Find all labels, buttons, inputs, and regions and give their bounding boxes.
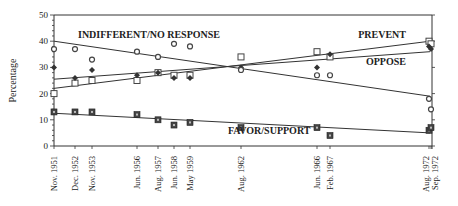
series-annotation: OPPOSE [366,56,406,67]
x-tick-label: Sep. 1972 [430,156,440,190]
y-axis-label: Percentage [7,58,18,102]
x-tick-label: Aug. 1957 [153,156,163,192]
annotations: INDIFFERENT/NO RESPONSEPREVENTOPPOSEFAVO… [78,29,406,136]
series-annotation: INDIFFERENT/NO RESPONSE [78,29,220,40]
y-tick-label: 10 [39,115,49,125]
x-tick-label: Feb. 1967 [325,156,335,190]
y-tick-label: 30 [39,62,49,72]
series-annotation: FAVOR/SUPPORT [228,125,311,136]
x-tick-label: Jun. 1956 [132,156,142,189]
y-tick-label: 50 [39,10,49,20]
series-annotation: PREVENT [358,29,406,40]
y-tick-label: 40 [39,36,49,46]
x-tick-label: Dec. 1952 [70,156,80,191]
x-tick-label: Jun. 1966 [312,156,322,189]
x-tick-label: Aug. 1962 [236,156,246,192]
x-tick-label: May 1959 [185,156,195,191]
y-tick-label: 20 [39,89,49,99]
x-tick-label: Nov. 1951 [49,156,59,191]
chart: 01020304050PercentageNov. 1951Dec. 1952N… [0,0,458,206]
x-tick-label: Jun. 1958 [169,156,179,189]
y-tick-label: 0 [44,141,49,151]
x-tick-label: Nov. 1953 [87,156,97,191]
